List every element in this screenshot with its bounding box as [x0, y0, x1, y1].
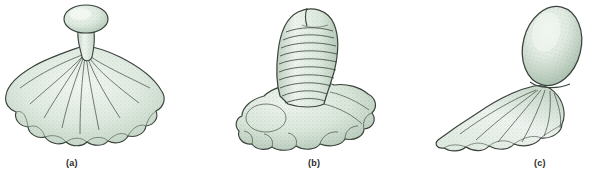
illustration-a [0, 0, 204, 155]
stalked-lobed-organism-a-icon [0, 0, 204, 155]
skirt-stipple-a [6, 46, 165, 146]
ringed-column-organism-b-icon [204, 0, 408, 155]
figure-plate: (a) [0, 0, 608, 182]
panel-caption-b: (b) [204, 157, 408, 169]
tilted-ovoid-organism-c-icon [404, 0, 608, 155]
illustration-b [204, 0, 408, 155]
figure-panel-a: (a) [0, 0, 204, 182]
figure-panel-c: (c) [404, 0, 608, 182]
illustration-c [404, 0, 608, 155]
panel-caption-a: (a) [0, 157, 204, 169]
head-group-c [514, 0, 590, 92]
knob-highlight-a [69, 8, 91, 20]
panel-caption-c: (c) [404, 157, 608, 169]
figure-panel-b: (b) [204, 0, 408, 182]
